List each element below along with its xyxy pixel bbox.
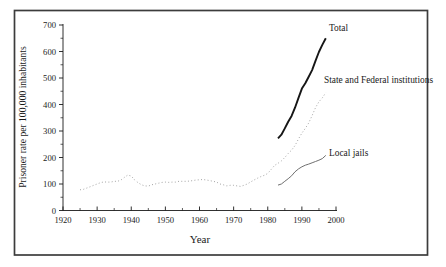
series-line-state-and-federal-institutions: [80, 93, 326, 190]
x-axis-title: Year: [190, 233, 211, 245]
x-tick-label: 1920: [54, 215, 71, 225]
x-tick-label: 1930: [89, 215, 106, 225]
y-tick-label: 400: [43, 100, 56, 110]
annotation-total: Total: [329, 23, 349, 33]
x-tick-label: 1970: [225, 215, 242, 225]
y-tick-label: 100: [43, 179, 56, 189]
series-line-local-jails: [278, 155, 326, 185]
annotation-local-jails: Local jails: [329, 148, 369, 158]
y-tick-label: 200: [43, 153, 56, 163]
axes: [63, 24, 337, 211]
prisoner-rate-chart: 0100200300400500600700 19201930194019501…: [0, 0, 446, 267]
x-tick-label: 1990: [293, 215, 310, 225]
figure-frame: [15, 11, 428, 256]
x-tick-label: 1950: [157, 215, 174, 225]
y-tick-label: 700: [43, 20, 56, 30]
x-axis-ticks: 192019301940195019601970198019902000: [54, 207, 344, 225]
x-tick-label: 2000: [327, 215, 344, 225]
y-axis-title: Prisoner rate per 100,000 inhabitants: [17, 46, 28, 188]
series-lines: [80, 38, 326, 190]
x-tick-label: 1940: [123, 215, 140, 225]
x-tick-label: 1980: [259, 215, 276, 225]
figure: 0100200300400500600700 19201930194019501…: [0, 0, 446, 267]
annotation-state-and-federal: State and Federal institutions: [324, 75, 433, 85]
series-line-total: [278, 38, 326, 138]
y-tick-label: 600: [43, 47, 56, 57]
y-axis-ticks: 0100200300400500600700: [43, 20, 63, 216]
y-tick-label: 500: [43, 73, 56, 83]
y-tick-label: 300: [43, 126, 56, 136]
x-tick-label: 1960: [191, 215, 208, 225]
